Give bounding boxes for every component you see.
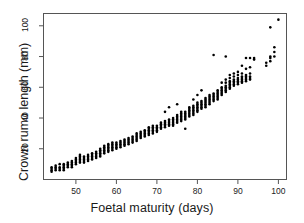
data-point [212, 100, 215, 103]
data-point [245, 80, 248, 83]
data-point [184, 127, 187, 130]
data-point [111, 149, 114, 152]
x-tick-label: 90 [226, 186, 250, 196]
data-point [249, 66, 252, 69]
data-point [180, 111, 183, 114]
data-point [273, 46, 276, 49]
data-point [249, 72, 252, 75]
data-point [249, 78, 252, 81]
data-point [188, 106, 191, 109]
data-point [172, 124, 175, 127]
data-point [208, 103, 211, 106]
data-point [119, 140, 122, 143]
data-point [265, 64, 268, 67]
data-point [204, 97, 207, 100]
scatter-plot-figure: 5060708090100 20406080100 Foetal maturit… [0, 0, 304, 223]
data-point [58, 169, 61, 172]
data-point [200, 100, 203, 103]
data-point [229, 77, 232, 80]
data-point [135, 132, 138, 135]
data-point [111, 141, 114, 144]
data-point [164, 111, 167, 114]
data-point [192, 98, 195, 101]
data-point [71, 160, 74, 163]
data-point [273, 51, 276, 54]
data-point [103, 144, 106, 147]
data-point [216, 89, 219, 92]
data-point [269, 60, 272, 63]
data-point [269, 26, 272, 29]
data-point [224, 81, 227, 84]
data-point [107, 143, 110, 146]
data-point [115, 141, 118, 144]
data-point [91, 158, 94, 161]
data-point [58, 163, 61, 166]
data-point [224, 84, 227, 87]
data-point [50, 166, 53, 169]
data-point [91, 152, 94, 155]
data-point [168, 124, 171, 127]
data-point [237, 83, 240, 86]
data-point [131, 135, 134, 138]
data-point [71, 166, 74, 169]
data-point [99, 147, 102, 150]
data-point [95, 157, 98, 160]
data-point [148, 126, 151, 129]
data-point [135, 140, 138, 143]
data-point [176, 103, 179, 106]
data-point [50, 171, 53, 174]
data-point [75, 157, 78, 160]
data-point [139, 137, 142, 140]
data-point [233, 72, 236, 75]
x-axis-title: Foetal maturity (days) [0, 201, 304, 215]
data-point [87, 160, 90, 163]
data-point [143, 129, 146, 132]
data-point [75, 163, 78, 166]
data-point [196, 101, 199, 104]
data-point [62, 169, 65, 172]
y-axis-title-container: Crown rumo length (mm) [0, 0, 24, 195]
data-point [200, 89, 203, 92]
data-point [107, 151, 110, 154]
data-point [62, 163, 65, 166]
data-point [95, 151, 98, 154]
data-point [67, 161, 70, 164]
data-point [99, 155, 102, 158]
data-point [79, 154, 82, 157]
data-point [245, 74, 248, 77]
data-point [192, 114, 195, 117]
data-point [208, 94, 211, 97]
y-axis-title: Crown rumo length (mm) [17, 43, 31, 181]
data-point [245, 57, 248, 60]
data-point [83, 155, 86, 158]
data-point [229, 88, 232, 91]
data-point [277, 18, 280, 21]
data-point [237, 71, 240, 74]
data-point [196, 94, 199, 97]
data-point [249, 57, 252, 60]
x-tick-label: 50 [64, 186, 88, 196]
data-point [245, 68, 248, 71]
data-point [160, 121, 163, 124]
data-point [164, 120, 167, 123]
data-point [241, 81, 244, 84]
data-point [233, 75, 236, 78]
data-point [188, 115, 191, 118]
data-point [237, 77, 240, 80]
data-point [160, 127, 163, 130]
data-point [237, 74, 240, 77]
data-point [176, 114, 179, 117]
data-point [184, 111, 187, 114]
data-point [220, 86, 223, 89]
data-point [241, 64, 244, 67]
data-point [164, 126, 167, 129]
data-point [220, 94, 223, 97]
data-point [123, 144, 126, 147]
x-tick-label: 60 [104, 186, 128, 196]
data-point [131, 141, 134, 144]
data-point [103, 152, 106, 155]
data-point [229, 80, 232, 83]
data-point [192, 104, 195, 107]
data-point [220, 81, 223, 84]
data-point [87, 154, 90, 157]
